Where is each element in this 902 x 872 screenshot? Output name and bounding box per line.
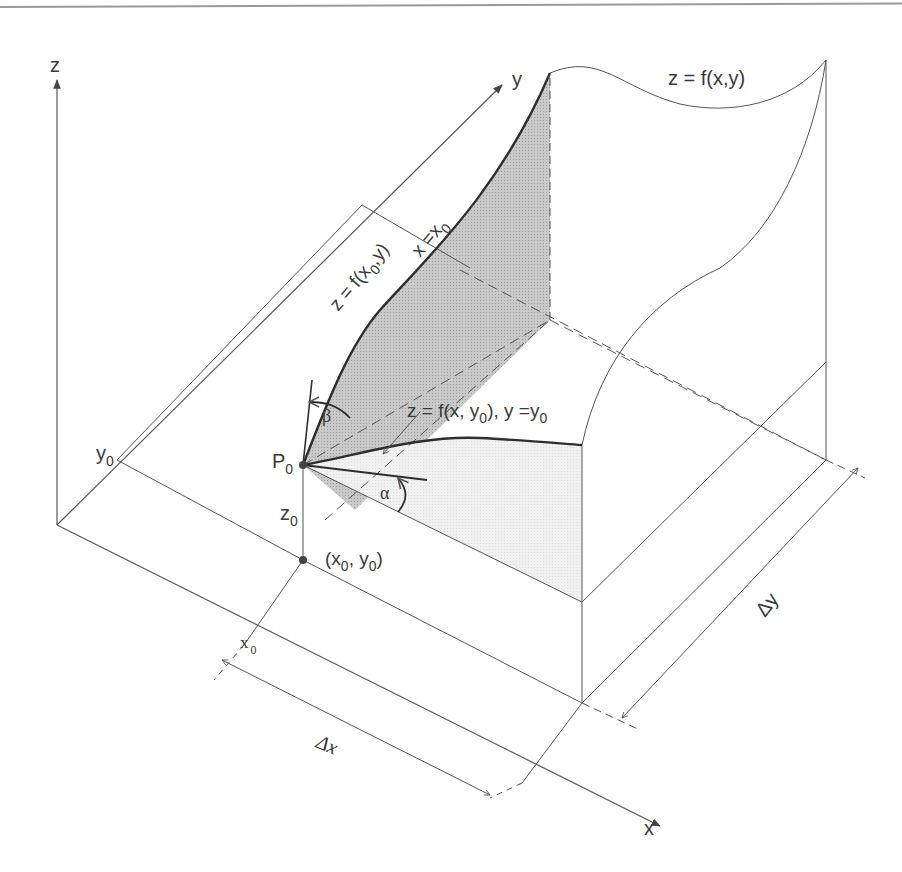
svg-text:Δx: Δx: [313, 730, 341, 759]
delta-x-label: Δx: [313, 730, 341, 759]
y-axis-label: y: [512, 68, 522, 90]
line-x0dx-parallel-y: [522, 703, 582, 783]
delta-y-label: Δy: [751, 589, 783, 621]
dashed-x0dx-extension: [490, 783, 522, 798]
shaded-region-y0-slice: [303, 438, 582, 602]
base-point-label: (x0, y0): [325, 548, 383, 574]
dimension-delta-y: [622, 468, 858, 718]
base-edge-right: [582, 460, 826, 703]
line-x0-parallel-y: [244, 560, 303, 645]
z-axis-label: z: [50, 54, 60, 76]
beta-label: β: [322, 406, 331, 426]
dimension-delta-x: [222, 660, 490, 795]
x0-label: x0: [240, 633, 257, 657]
line-y0-parallel-x: [117, 460, 303, 560]
top-edge-right: [582, 362, 826, 602]
alpha-label: α: [380, 483, 390, 503]
z0-label: z0: [280, 502, 298, 529]
point-p0: [299, 461, 307, 469]
surface-right-curve: [582, 60, 826, 445]
surface-label: z = f(x,y): [668, 67, 745, 89]
diagram-canvas: z y x z = f(x,y) z = f(x0,y) x =x0 z = f…: [0, 0, 902, 872]
top-edge-back-dashed: [550, 320, 826, 460]
dashed-base-extension-back: [826, 460, 865, 478]
point-x0-y0: [299, 556, 307, 564]
p0-label: P0: [272, 450, 293, 477]
x-axis-label: x: [644, 817, 654, 839]
y0-label: y0: [96, 442, 114, 469]
svg-text:Δy: Δy: [751, 589, 783, 621]
dashed-base-extension-right: [582, 703, 640, 730]
